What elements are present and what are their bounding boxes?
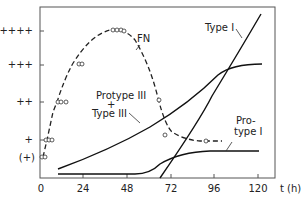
label-fn: FN — [137, 33, 150, 44]
x-tick-label: 96 — [208, 183, 221, 194]
label-protype1-line1: Pro- — [236, 115, 256, 126]
y-axis — [40, 31, 44, 140]
x-axis-title: t (h) — [280, 183, 301, 194]
y-tick-label: (+) — [19, 152, 35, 163]
x-tick-label: 24 — [77, 183, 90, 194]
label-type1: Type I — [204, 22, 234, 33]
y-tick-label: +++ — [8, 59, 33, 70]
x-tick-label: 72 — [165, 183, 178, 194]
y-tick-label: + — [25, 134, 33, 145]
y-tick-label: ++ — [16, 96, 33, 107]
label-type3: Type III — [91, 108, 127, 119]
plot-frame — [40, 7, 275, 178]
leader-protype1 — [226, 142, 232, 151]
series-protype3-type3-line — [58, 64, 262, 169]
label-protype1-line2: type I — [234, 126, 262, 137]
leader-type1 — [236, 29, 242, 38]
x-tick-label: 48 — [121, 183, 134, 194]
y-tick-label: ++++ — [0, 25, 33, 36]
chart: ++++ +++ ++ + (+) 0 24 48 72 96 120 t (h… — [0, 0, 307, 203]
series-type1-line — [160, 14, 261, 178]
x-tick-label: 0 — [38, 183, 44, 194]
leader-protype3 — [129, 113, 140, 123]
series-protype1-line — [58, 151, 259, 174]
x-tick-label: 120 — [248, 183, 267, 194]
label-protype3: Protype III — [96, 90, 146, 101]
